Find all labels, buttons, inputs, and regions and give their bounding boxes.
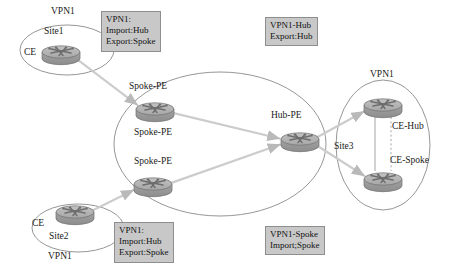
link-spoke1-hub[interactable]: [172, 113, 281, 139]
link-spoke2-hub[interactable]: [169, 144, 281, 183]
note-spoke-site1-line-0: VPN1:: [106, 14, 156, 25]
note-spoke-site2-line-2: Export:Spoke: [119, 247, 169, 258]
network-diagram: VPN1Site1CESpoke-PESpoke-PESpoke-PEHub-P…: [0, 0, 450, 279]
note-spoke-line-0: VPN1-Spoke: [270, 229, 320, 240]
label-site2: Site2: [49, 232, 69, 242]
label-ce-spoke: CE-Spoke: [390, 156, 429, 166]
note-spoke: VPN1-SpokeImport;Spoke: [265, 226, 325, 255]
label-ce-site2: CE: [32, 219, 44, 229]
label-spoke-pe-2: Spoke-PE: [134, 128, 172, 138]
label-hub-pe: Hub-PE: [271, 111, 302, 121]
router-spoke-pe-1[interactable]: [136, 103, 174, 122]
router-hub-pe[interactable]: [281, 133, 319, 152]
note-spoke-site1-line-2: Export:Spoke: [106, 36, 156, 47]
links-group: [76, 58, 391, 211]
link-ce2-spoke2[interactable]: [91, 190, 134, 212]
router-spoke-pe-2[interactable]: [134, 178, 172, 197]
label-spoke-pe-3: Spoke-PE: [134, 157, 172, 167]
router-ce-site2[interactable]: [56, 206, 94, 225]
note-spoke-site1: VPN1:Import:HubExport:Spoke: [101, 11, 161, 52]
router-ce-site1[interactable]: [42, 46, 80, 65]
note-hub: VPN1-HubExport:Hub: [265, 17, 318, 46]
label-vpn1-site1: VPN1: [51, 7, 75, 17]
label-ce-hub: CE-Hub: [392, 122, 424, 132]
note-spoke-site2-line-1: Import:Hub: [119, 236, 169, 247]
label-ce-site1: CE: [24, 48, 36, 58]
label-site3: Site3: [334, 142, 354, 152]
label-site1: Site1: [44, 27, 64, 37]
note-spoke-site2-line-0: VPN1:: [119, 225, 169, 236]
note-spoke-site1-line-1: Import:Hub: [106, 25, 156, 36]
label-vpn1-site2: VPN1: [48, 252, 72, 262]
router-ce-spoke[interactable]: [364, 173, 402, 192]
note-spoke-line-1: Import;Spoke: [270, 240, 320, 251]
label-vpn1-site3: VPN1: [370, 70, 394, 80]
router-ce-hub[interactable]: [364, 99, 402, 118]
note-spoke-site2: VPN1:Import:HubExport:Spoke: [114, 222, 174, 263]
note-hub-line-1: Export:Hub: [270, 31, 313, 42]
note-hub-line-0: VPN1-Hub: [270, 20, 313, 31]
link-hub-cehub[interactable]: [316, 111, 365, 138]
label-spoke-pe-1: Spoke-PE: [129, 82, 167, 92]
